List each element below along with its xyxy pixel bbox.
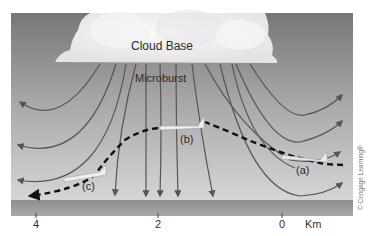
microburst-label: Microburst	[135, 72, 186, 84]
plane-b-label: (b)	[180, 133, 193, 145]
cloud-icon	[55, 10, 277, 63]
ground	[11, 200, 353, 216]
axis-tick-0: 0	[279, 218, 285, 230]
axis-unit: Km	[305, 218, 322, 230]
cloud-base-label: Cloud Base	[131, 39, 193, 53]
plane-a-label: (a)	[296, 164, 309, 176]
plane-c-label: (c)	[82, 180, 95, 192]
copyright-text: © Cengage Learning®	[357, 145, 364, 210]
axis-tick-2: 2	[155, 218, 161, 230]
microburst-diagram	[0, 0, 372, 236]
axis-tick-4: 4	[33, 218, 39, 230]
